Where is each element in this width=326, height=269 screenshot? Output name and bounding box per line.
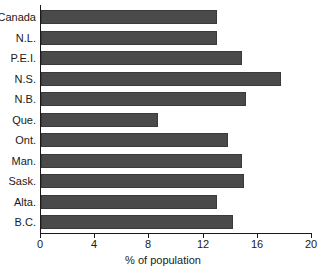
x-axis-tick-label: 12: [183, 238, 223, 251]
x-axis-tick-label: 16: [237, 238, 277, 251]
x-axis-tick-label: 0: [20, 238, 60, 251]
y-axis-tick-label: B.C.: [15, 216, 39, 228]
y-axis-tick-label: P.E.I.: [11, 52, 39, 64]
bar: [41, 51, 242, 65]
y-axis-tick-label: Que.: [12, 114, 39, 126]
bar-chart: Canada N.L. P.E.I. N.S. N.B. Que. Ont. M…: [0, 0, 326, 269]
x-axis-tick-label: 8: [128, 238, 168, 251]
y-axis-tick-label: N.S.: [15, 73, 39, 85]
y-axis-tick-label: Ont.: [15, 134, 39, 146]
x-axis-line: [40, 233, 312, 234]
bar: [41, 31, 217, 45]
x-axis-tick-label: 4: [74, 238, 114, 251]
y-axis-tick-label: Canada: [0, 11, 39, 23]
bar: [41, 10, 217, 24]
y-axis-line: [40, 5, 41, 233]
bar: [41, 195, 217, 209]
bar: [41, 113, 158, 127]
bar: [41, 215, 233, 229]
bar: [41, 92, 246, 106]
bar: [41, 174, 244, 188]
bar: [41, 154, 242, 168]
x-axis-title: % of population: [0, 253, 326, 267]
y-axis-tick-label: Alta.: [14, 196, 39, 208]
y-axis-tick-label: Sask.: [8, 175, 39, 187]
bar: [41, 133, 228, 147]
bar: [41, 72, 281, 86]
y-axis-tick-label: Man.: [12, 155, 39, 167]
y-axis-tick-label: N.B.: [15, 93, 39, 105]
y-axis-tick-label: N.L.: [16, 32, 39, 44]
x-axis-tick-label: 20: [291, 238, 326, 251]
